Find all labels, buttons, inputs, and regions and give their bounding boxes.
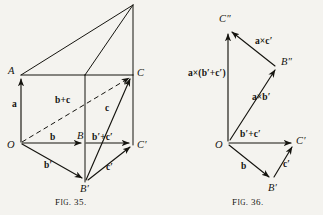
fig36-point-Bprime: B′ — [268, 183, 277, 194]
fig35-label-b: b — [50, 133, 55, 143]
fig35-point-Bprime: B′ — [80, 184, 89, 195]
fig35-label-bprime: b′ — [44, 161, 52, 171]
fig35-point-O: O — [7, 140, 15, 151]
fig36-point-O: O — [215, 140, 223, 151]
fig36-label-bprime-plus-cprime: b′+c′ — [240, 130, 261, 140]
fig35-label-cprime: c′ — [106, 163, 113, 173]
fig35-edge-A-apex — [21, 5, 133, 75]
fig36-label-a-cross-sum: a×(b′+c′) — [188, 69, 226, 79]
fig35-prism-edges — [21, 5, 133, 182]
fig36-caption: FIG. 36. — [232, 198, 264, 207]
fig35-point-Cprime: C′ — [137, 140, 147, 151]
fig36-point-Cprime: C′ — [296, 136, 306, 147]
fig35-label-a: a — [12, 100, 17, 110]
fig35-point-C: C — [137, 68, 144, 79]
figure-plate: A O B B′ C C′ a b c b′ c′ b+c b′+c′ FIG.… — [0, 0, 323, 215]
fig36-point-Bdoubleprime: B″ — [281, 57, 292, 68]
fig36-vector-b — [229, 145, 269, 177]
fig36-label-cprime: c′ — [283, 160, 290, 170]
fig36-label-a-cross-bprime: a×b′ — [252, 93, 271, 103]
fig36-label-a-cross-cprime: a×c′ — [255, 37, 272, 47]
fig35-point-A: A — [8, 66, 15, 77]
fig35-label-b-plus-c: b+c — [55, 96, 70, 106]
fig36-label-b: b — [241, 162, 246, 172]
fig35-caption: FIG. 35. — [55, 198, 87, 207]
fig35-edge-topB-apex — [85, 5, 133, 75]
fig35-point-B: B — [77, 131, 84, 142]
fig35-label-bprime-plus-cprime: b′+c′ — [92, 133, 113, 143]
fig36-point-Cdoubleprime: C″ — [219, 14, 231, 25]
fig35-label-c: c — [105, 104, 109, 114]
